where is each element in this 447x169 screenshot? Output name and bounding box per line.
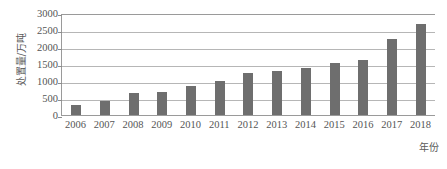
bar[interactable]	[157, 92, 167, 115]
bar[interactable]	[387, 39, 397, 115]
x-tick-label: 2016	[349, 119, 378, 131]
y-tick-label: 1500	[16, 60, 58, 70]
x-axis-title: 年份	[419, 139, 439, 154]
y-tick-mark	[58, 117, 62, 118]
bar[interactable]	[416, 24, 426, 115]
bar-slot	[263, 15, 292, 115]
bar-slot	[292, 15, 321, 115]
x-tick-label: 2015	[320, 119, 349, 131]
bar-slot	[320, 15, 349, 115]
x-tick-label: 2010	[176, 119, 205, 131]
x-tick-label: 2006	[61, 119, 90, 131]
x-tick-label: 2017	[377, 119, 406, 131]
y-tick-label: 3000	[16, 9, 58, 19]
x-tick-label: 2011	[205, 119, 234, 131]
bar-slot	[406, 15, 435, 115]
y-tick-label: 500	[16, 94, 58, 104]
plot-area	[61, 14, 435, 116]
bar-slot	[349, 15, 378, 115]
bar-chart: 处置量/万吨 050010001500200025003000 20062007…	[0, 0, 447, 169]
bar[interactable]	[358, 60, 368, 115]
x-axis-tick-labels: 2006200720082009201020112012201320142015…	[61, 119, 435, 131]
y-tick-label: 2000	[16, 43, 58, 53]
x-tick-label: 2018	[406, 119, 435, 131]
bar[interactable]	[100, 101, 110, 115]
bars-container	[62, 15, 435, 115]
bar-slot	[119, 15, 148, 115]
bar[interactable]	[243, 73, 253, 115]
y-tick-label: 2500	[16, 26, 58, 36]
x-tick-label: 2007	[90, 119, 119, 131]
x-tick-label: 2008	[119, 119, 148, 131]
bar[interactable]	[129, 93, 139, 115]
y-axis-tick-labels: 050010001500200025003000	[16, 14, 58, 116]
bar-slot	[62, 15, 91, 115]
bar[interactable]	[71, 105, 81, 115]
bar[interactable]	[215, 81, 225, 115]
bar-slot	[205, 15, 234, 115]
bar[interactable]	[301, 68, 311, 115]
x-tick-label: 2014	[291, 119, 320, 131]
x-tick-label: 2009	[147, 119, 176, 131]
y-tick-label: 0	[16, 111, 58, 121]
bar-slot	[378, 15, 407, 115]
bar-slot	[234, 15, 263, 115]
y-tick-label: 1000	[16, 77, 58, 87]
x-tick-label: 2012	[234, 119, 263, 131]
bar-slot	[91, 15, 120, 115]
x-tick-label: 2013	[262, 119, 291, 131]
bar[interactable]	[330, 63, 340, 115]
bar[interactable]	[186, 86, 196, 115]
bar[interactable]	[272, 71, 282, 115]
bar-slot	[148, 15, 177, 115]
bar-slot	[177, 15, 206, 115]
